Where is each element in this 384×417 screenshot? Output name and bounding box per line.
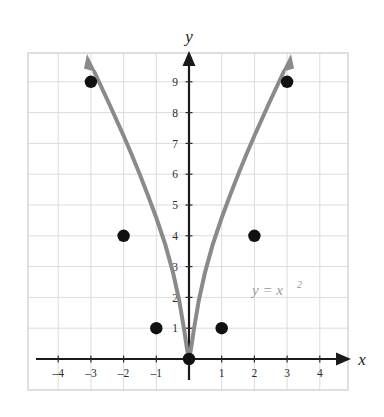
y-tick-label: 4 [172,230,178,242]
x-tick-label: 4 [317,367,323,379]
x-tick-label: –2 [117,367,130,379]
x-axis-label: x [357,350,366,369]
data-point [183,353,195,365]
y-tick-label: 1 [172,322,178,334]
graph-canvas: –4 –3 –2 –1 1 2 3 4 1 2 3 4 5 6 7 8 9 [0,0,384,417]
x-tick-label: –1 [150,367,163,379]
x-tick-label: 2 [252,367,258,379]
data-point [85,76,97,88]
y-tick-label: 7 [172,138,178,150]
data-point [117,230,129,242]
parabola-figure: –4 –3 –2 –1 1 2 3 4 1 2 3 4 5 6 7 8 9 [0,0,384,417]
data-point [248,230,260,242]
y-tick-label: 6 [172,168,178,180]
data-point [150,322,162,334]
data-point [281,76,293,88]
x-tick-label: 3 [284,367,290,379]
equation-label: y = x [250,282,283,298]
y-tick-label: 8 [172,107,178,119]
equation-exponent: 2 [297,279,302,290]
y-tick-label: 9 [172,76,178,88]
data-point [216,322,228,334]
x-tick-label: 1 [219,367,225,379]
x-tick-label: –4 [51,367,64,379]
y-axis-label: y [183,27,193,46]
x-tick-label: –3 [84,367,97,379]
y-tick-label: 5 [172,199,178,211]
